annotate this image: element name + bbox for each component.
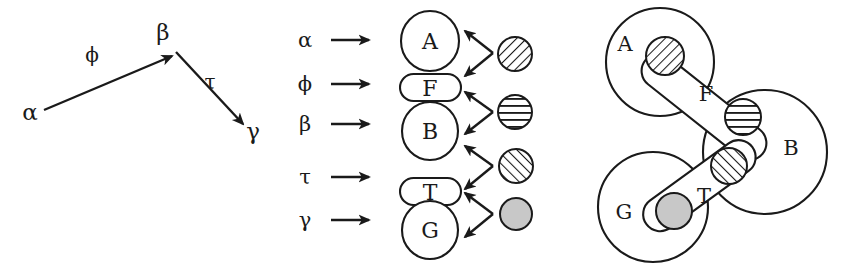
- set-marker-diagonal-slash-icon: [711, 148, 747, 184]
- panel-left-path-graph: α β γ ϕ τ: [22, 19, 260, 144]
- edge-alpha-beta: [44, 56, 172, 110]
- map-marker-3-group: [465, 146, 533, 189]
- map-greek-beta: β: [299, 112, 311, 136]
- node-label-beta: β: [156, 19, 169, 45]
- map-marker-2-arrow-up: [465, 92, 493, 112]
- set-label-F: F: [699, 82, 714, 106]
- map-marker-4-arrow-up: [465, 193, 493, 214]
- node-label-alpha: α: [22, 99, 38, 125]
- map-marker-1-arrow-down: [465, 53, 493, 76]
- set-marker-horizontal-lines-icon: [725, 99, 761, 135]
- map-marker-3-arrow-up: [465, 146, 493, 166]
- map-marker-1-group: [465, 31, 532, 76]
- set-marker-solid-gray-icon: [656, 193, 692, 229]
- map-marker-3-arrow-down: [465, 166, 493, 189]
- map-greek-gamma: γ: [299, 208, 312, 232]
- map-greek-tau: τ: [299, 165, 311, 189]
- figure-canvas: α β γ ϕ τ α A ϕ F β B τ T γ G: [0, 0, 841, 268]
- map-marker-4-arrow-down: [465, 214, 493, 237]
- figure-svg: α β γ ϕ τ α A ϕ F β B τ T γ G: [0, 0, 841, 268]
- map-shape-label-A: A: [421, 29, 439, 54]
- map-shape-label-B: B: [422, 119, 438, 144]
- node-label-gamma: γ: [246, 118, 260, 144]
- map-marker-1-arrow-up: [465, 31, 493, 53]
- set-label-G: G: [616, 200, 633, 224]
- set-label-T: T: [697, 184, 711, 208]
- map-marker-2-group: [465, 92, 532, 134]
- set-label-A: A: [616, 32, 633, 56]
- map-marker-2-arrow-down: [465, 112, 493, 134]
- map-greek-phi: ϕ: [298, 72, 312, 96]
- set-label-B: B: [783, 136, 798, 160]
- panel-right-set-diagram: F T A B G: [598, 8, 827, 262]
- map-marker-4-solid-gray-icon: [500, 198, 532, 230]
- map-marker-3-diagonal-slash-icon: [499, 149, 533, 183]
- set-marker-diagonal-backslash-icon: [646, 37, 684, 75]
- map-shape-label-F: F: [422, 76, 437, 101]
- map-marker-2-horizontal-lines-icon: [498, 95, 532, 129]
- map-marker-4-group: [465, 193, 532, 237]
- edge-label-tau: τ: [204, 70, 215, 94]
- edge-label-phi: ϕ: [85, 43, 99, 67]
- map-marker-1-diagonal-backslash-icon: [498, 37, 532, 71]
- map-greek-alpha: α: [298, 28, 312, 52]
- panel-middle-mapping: α A ϕ F β B τ T γ G: [298, 11, 533, 259]
- map-shape-label-G: G: [421, 218, 439, 243]
